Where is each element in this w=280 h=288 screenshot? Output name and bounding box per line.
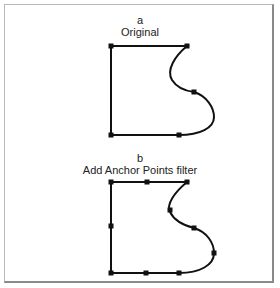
anchor-point[interactable]: [177, 271, 182, 276]
anchor-point[interactable]: [144, 271, 149, 276]
anchor-point[interactable]: [109, 180, 114, 185]
panel-a-anchors: [109, 44, 197, 138]
anchor-point[interactable]: [185, 44, 190, 49]
anchor-point[interactable]: [109, 133, 114, 138]
anchor-point[interactable]: [109, 44, 114, 49]
anchor-point[interactable]: [109, 224, 114, 229]
panel-a-path: [111, 46, 214, 135]
panel-a-path-group: [109, 44, 215, 138]
anchor-point[interactable]: [145, 180, 150, 185]
panel-b-path-group: [109, 180, 217, 276]
anchor-point[interactable]: [192, 226, 197, 231]
anchor-point[interactable]: [185, 180, 190, 185]
anchor-point[interactable]: [177, 133, 182, 138]
diagram-canvas: [0, 0, 280, 288]
anchor-point[interactable]: [168, 208, 173, 213]
anchor-point[interactable]: [109, 271, 114, 276]
anchor-point[interactable]: [192, 90, 197, 95]
anchor-point[interactable]: [212, 251, 217, 256]
panel-b-anchors: [109, 180, 217, 276]
panel-b-path: [111, 182, 214, 273]
